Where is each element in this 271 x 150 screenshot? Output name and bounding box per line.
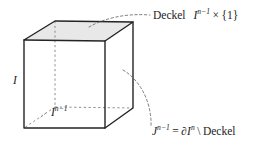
label-j-equals: =: [170, 125, 182, 137]
label-deckel-top-symbol-exponent: n−1: [197, 7, 210, 16]
label-base-face: In−1: [51, 107, 68, 119]
figure-canvas: Deckel In−1×{1} Jn−1=∂In\Deckel I In−1: [0, 0, 271, 150]
label-j-boundary: Jn−1=∂In\Deckel: [152, 126, 235, 138]
label-deckel-top-set: {1}: [222, 9, 239, 21]
leader-line-base-face: [41, 113, 46, 117]
label-j-word: Deckel: [203, 125, 236, 137]
label-j-symbol-exponent: n−1: [157, 123, 170, 132]
label-deckel-top: Deckel In−1×{1}: [153, 10, 238, 22]
leader-line-j-boundary: [123, 70, 151, 127]
cube-top-face-deckel: [24, 21, 133, 41]
label-j-setminus: \: [195, 125, 203, 137]
label-base-face-symbol-exponent: n−1: [55, 104, 68, 113]
label-interval-left: I: [13, 75, 17, 87]
label-deckel-top-operator: ×: [210, 9, 222, 21]
label-deckel-top-word: Deckel: [153, 9, 186, 21]
